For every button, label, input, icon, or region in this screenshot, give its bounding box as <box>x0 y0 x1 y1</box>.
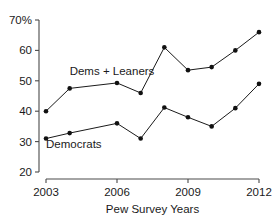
chart-page: 203040506070% 2003200620092012 Dems + Le… <box>0 0 280 221</box>
false <box>44 109 49 114</box>
y-axis: 203040506070% <box>9 14 39 178</box>
false <box>138 91 143 96</box>
series-2 <box>44 82 262 141</box>
false <box>162 105 167 110</box>
y-tick-label: 60 <box>19 44 32 56</box>
y-tick-label: 50 <box>19 75 32 87</box>
false <box>233 106 238 111</box>
false <box>186 68 191 73</box>
false <box>115 121 120 126</box>
false <box>67 131 72 136</box>
line-chart: 203040506070% 2003200620092012 Dems + Le… <box>0 0 280 221</box>
false <box>209 124 214 129</box>
x-tick-label: 2009 <box>175 186 201 198</box>
series-annotation-label: Democrats <box>46 138 102 150</box>
series-polyline <box>46 84 259 139</box>
false <box>138 136 143 141</box>
x-tick-label: 2003 <box>33 186 59 198</box>
false <box>209 65 214 70</box>
y-tick-label: 30 <box>19 136 32 148</box>
false <box>162 45 167 50</box>
false <box>67 86 72 91</box>
false <box>115 81 120 86</box>
series-layer <box>44 30 262 141</box>
false <box>257 82 262 87</box>
x-tick-label: 2006 <box>104 186 130 198</box>
y-tick-label: 40 <box>19 105 32 117</box>
y-tick-label: 70% <box>9 14 32 26</box>
series-annotation-label: Dems + Leaners <box>70 65 155 77</box>
x-tick-label: 2012 <box>246 186 272 198</box>
false <box>186 115 191 120</box>
false <box>233 48 238 53</box>
y-tick-label: 20 <box>19 166 32 178</box>
x-axis-title: Pew Survey Years <box>106 203 200 215</box>
x-axis: 2003200620092012 <box>33 179 272 198</box>
false <box>257 30 262 35</box>
